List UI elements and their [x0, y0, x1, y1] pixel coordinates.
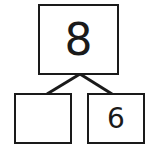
left-part-box[interactable] — [14, 93, 72, 144]
whole-value: 8 — [65, 14, 93, 65]
whole-box: 8 — [38, 4, 119, 75]
right-part-box: 6 — [87, 93, 145, 144]
right-connector-line — [80, 74, 112, 94]
right-part-value: 6 — [107, 102, 125, 135]
left-connector-line — [47, 74, 80, 94]
